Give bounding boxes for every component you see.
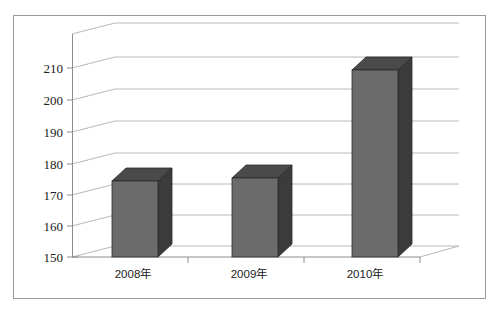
bar-2008[interactable] (112, 168, 172, 257)
bar-2009-front (232, 178, 278, 257)
ytick-label-160: 160 (44, 219, 64, 234)
column-chart-3d: 210 200 190 180 170 160 150 (0, 0, 499, 314)
ytick-label-200: 200 (44, 93, 64, 108)
ytick-label-190: 190 (44, 125, 64, 140)
bar-2009-side (278, 165, 292, 257)
bar-2010-front (352, 70, 398, 257)
chart-container: 210 200 190 180 170 160 150 (0, 0, 499, 314)
ytick-label-210: 210 (44, 61, 64, 76)
xtick-label-2008: 2008年 (115, 267, 152, 280)
xtick-label-2009: 2009年 (231, 267, 268, 280)
bar-2010[interactable] (352, 57, 412, 257)
ytick-label-180: 180 (44, 157, 64, 172)
ytick-label-170: 170 (44, 188, 64, 203)
bar-2010-side (398, 57, 412, 257)
xtick-label-2010: 2010年 (347, 267, 384, 280)
bar-2008-front (112, 181, 158, 257)
bar-2008-side (158, 168, 172, 257)
ytick-label-150: 150 (44, 250, 64, 265)
bar-2009[interactable] (232, 165, 292, 257)
